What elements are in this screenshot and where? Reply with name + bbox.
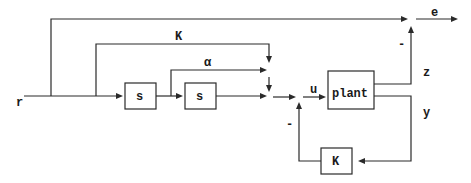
feedback-line xyxy=(299,108,321,161)
s-block-2-label: s xyxy=(196,90,203,104)
arrow-head-icon xyxy=(358,158,365,164)
signal-y-label: y xyxy=(423,106,430,120)
arrow-head-icon xyxy=(451,16,458,22)
arrow-head-icon xyxy=(116,93,123,99)
feedback-minus-sign: - xyxy=(286,118,293,132)
arrow-head-icon xyxy=(266,56,272,63)
signal-z-label: z xyxy=(423,66,430,80)
z-output-line xyxy=(374,32,411,84)
gain-k-label: K xyxy=(175,30,183,44)
arrow-head-icon xyxy=(319,94,326,100)
arrow-head-icon xyxy=(260,67,267,73)
arrow-head-icon xyxy=(408,26,414,33)
feedback-k-label: K xyxy=(332,155,340,169)
plant-block-label: plant xyxy=(332,87,368,101)
block-diagram: r K s α s u plant z - e y K - xyxy=(0,0,471,183)
arrow-head-icon xyxy=(176,93,183,99)
arrow-head-icon xyxy=(296,102,302,109)
arrow-head-icon xyxy=(401,16,408,22)
z-minus-sign: - xyxy=(398,38,405,52)
arrow-head-icon xyxy=(260,93,267,99)
alpha-label: α xyxy=(204,56,212,70)
signal-e-label: e xyxy=(431,6,438,20)
signal-u-label: u xyxy=(310,83,317,97)
signal-r-label: r xyxy=(16,96,23,110)
s-block-1-label: s xyxy=(136,90,143,104)
arrow-head-icon xyxy=(266,85,272,92)
arrow-head-icon xyxy=(289,94,296,100)
